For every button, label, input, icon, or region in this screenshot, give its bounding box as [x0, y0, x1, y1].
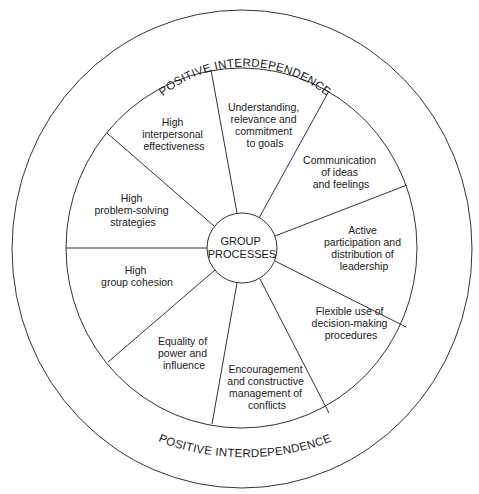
segment-participation: Active participation and distribution of…: [324, 224, 404, 272]
segment-conflict: Encouragement and constructive managemen…: [227, 363, 306, 411]
divider-line: [212, 283, 237, 424]
divider-line: [275, 185, 407, 236]
segment-communication: Communication of ideas and feelings: [303, 154, 379, 190]
segment-understanding: Understanding, relevance and commitment …: [228, 101, 302, 149]
group-processes-wheel-diagram: GROUP PROCESSES POSITIVE INTERDEPENDENCE…: [0, 0, 479, 494]
segment-equality: Equality of power and influence: [158, 335, 210, 371]
segment-problem-solving: High problem-solving strategies: [94, 192, 171, 228]
segment-cohesion: High group cohesion: [101, 264, 173, 288]
divider-line: [211, 70, 237, 213]
segment-interpersonal: High interpersonal effectiveness: [142, 116, 206, 152]
ring-label-top: POSITIVE INTERDEPENDENCE: [157, 56, 334, 97]
segment-decision-making: Flexible use of decision-making procedur…: [312, 305, 391, 341]
ring-label-bottom: POSITIVE INTERDEPENDENCE: [157, 432, 333, 460]
